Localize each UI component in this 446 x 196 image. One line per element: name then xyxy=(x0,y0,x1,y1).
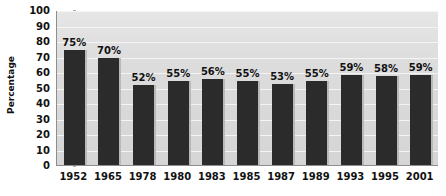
bar-1987: 53% xyxy=(272,11,293,166)
bar-rect-1965 xyxy=(98,58,119,167)
bar-value-label-1993: 59% xyxy=(339,63,363,73)
bar-rect-1989 xyxy=(306,81,327,166)
bar-1995: 58% xyxy=(376,11,397,166)
x-axis-tick-labels: 1952196519781980198319851987198919931995… xyxy=(56,172,437,192)
bar-value-label-1980: 55% xyxy=(166,69,190,79)
bar-value-label-1983: 56% xyxy=(201,67,225,77)
y-tick-label-30: 30 xyxy=(22,115,50,125)
y-axis-title-text: Percentage xyxy=(6,56,16,114)
bar-rect-1987 xyxy=(272,84,293,166)
x-tick-label-2001: 2001 xyxy=(406,172,434,182)
bar-rect-1985 xyxy=(237,81,258,166)
y-tick-label-80: 80 xyxy=(22,37,50,47)
y-tick-label-50: 50 xyxy=(22,84,50,94)
bar-value-label-1978: 52% xyxy=(132,73,156,83)
y-axis-title: Percentage xyxy=(0,0,22,170)
bar-2001: 59% xyxy=(410,11,431,166)
x-tick-label-1987: 1987 xyxy=(267,172,295,182)
y-tick-label-70: 70 xyxy=(22,53,50,63)
bar-rect-1980 xyxy=(168,81,189,166)
y-tick-label-90: 90 xyxy=(22,22,50,32)
bar-rect-1995 xyxy=(376,76,397,166)
x-axis-line xyxy=(57,165,438,166)
bar-chart: Percentage 1009080706050403020100 75%70%… xyxy=(0,0,446,196)
bar-1985: 55% xyxy=(237,11,258,166)
x-tick-label-1952: 1952 xyxy=(59,172,87,182)
bar-1993: 59% xyxy=(341,11,362,166)
bar-value-label-1985: 55% xyxy=(236,69,260,79)
bar-1965: 70% xyxy=(98,11,119,166)
bar-rect-1993 xyxy=(341,75,362,166)
x-tick-label-1995: 1995 xyxy=(371,172,399,182)
y-tick-label-0: 0 xyxy=(22,161,50,171)
bar-1980: 55% xyxy=(168,11,189,166)
x-tick-label-1980: 1980 xyxy=(163,172,191,182)
x-tick-label-1985: 1985 xyxy=(233,172,261,182)
bar-1983: 56% xyxy=(202,11,223,166)
bar-rect-2001 xyxy=(410,75,431,166)
x-tick-label-1993: 1993 xyxy=(336,172,364,182)
bar-rect-1983 xyxy=(202,79,223,166)
bar-value-label-1987: 53% xyxy=(270,72,294,82)
y-axis-tick-labels: 1009080706050403020100 xyxy=(22,11,50,166)
bar-1952: 75% xyxy=(64,11,85,166)
x-tick-label-1965: 1965 xyxy=(94,172,122,182)
bar-rect-1952 xyxy=(64,50,85,166)
bar-rect-1978 xyxy=(133,85,154,166)
x-tick-label-1989: 1989 xyxy=(302,172,330,182)
y-tick-label-10: 10 xyxy=(22,146,50,156)
y-tick-label-100: 100 xyxy=(22,6,50,16)
bar-value-label-2001: 59% xyxy=(409,63,433,73)
bar-value-label-1995: 58% xyxy=(374,64,398,74)
bar-value-label-1952: 75% xyxy=(62,38,86,48)
y-tick-label-40: 40 xyxy=(22,99,50,109)
y-tick-label-60: 60 xyxy=(22,68,50,78)
y-tick-label-20: 20 xyxy=(22,130,50,140)
x-tick-label-1978: 1978 xyxy=(129,172,157,182)
bar-1978: 52% xyxy=(133,11,154,166)
bar-series: 75%70%52%55%56%55%53%55%59%58%59% xyxy=(57,11,438,166)
plot-area: 75%70%52%55%56%55%53%55%59%58%59% xyxy=(56,11,438,166)
bar-value-label-1965: 70% xyxy=(97,46,121,56)
x-tick-label-1983: 1983 xyxy=(198,172,226,182)
bar-value-label-1989: 55% xyxy=(305,69,329,79)
bar-1989: 55% xyxy=(306,11,327,166)
